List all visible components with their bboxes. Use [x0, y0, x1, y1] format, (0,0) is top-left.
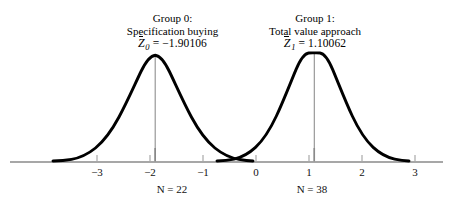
- x-tick-label-minus3: −3: [85, 166, 109, 178]
- x-axis-ticks: [97, 155, 415, 161]
- group1-equals: =: [298, 37, 305, 49]
- group0-equals: =: [153, 37, 160, 49]
- group0-annotation: Group 0: Specification buying Z0 = −1.90…: [100, 12, 245, 53]
- group1-zbar-symbol: Z: [284, 37, 291, 50]
- group0-zbar-symbol: Z: [138, 37, 145, 50]
- x-tick-label-one: 1: [297, 166, 321, 178]
- x-tick-label-minus2: −2: [138, 166, 162, 178]
- normal-distribution-figure: Group 0: Specification buying Z0 = −1.90…: [0, 0, 455, 203]
- group0-title: Group 0:: [100, 12, 245, 25]
- group1-mean-value: 1.10062: [308, 37, 346, 49]
- curve-group0: [53, 55, 253, 161]
- group1-mean-statistic: Z1 = 1.10062: [240, 37, 390, 53]
- group1-description: Total value approach: [240, 25, 390, 38]
- group0-mean-value: −1.90106: [162, 37, 207, 49]
- x-tick-label-two: 2: [350, 166, 374, 178]
- x-tick-label-minus1: −1: [191, 166, 215, 178]
- x-tick-label-zero: 0: [244, 166, 268, 178]
- x-tick-label-three: 3: [403, 166, 427, 178]
- curve-group1: [217, 53, 409, 161]
- group0-sample-size: N = 22: [132, 183, 212, 195]
- group1-title: Group 1:: [240, 12, 390, 25]
- group1-zbar-subscript: 1: [291, 42, 295, 52]
- group0-mean-statistic: Z0 = −1.90106: [100, 37, 245, 53]
- group0-description: Specification buying: [100, 25, 245, 38]
- group1-sample-size: N = 38: [272, 183, 352, 195]
- group0-zbar-subscript: 0: [145, 42, 149, 52]
- group1-annotation: Group 1: Total value approach Z1 = 1.100…: [240, 12, 390, 53]
